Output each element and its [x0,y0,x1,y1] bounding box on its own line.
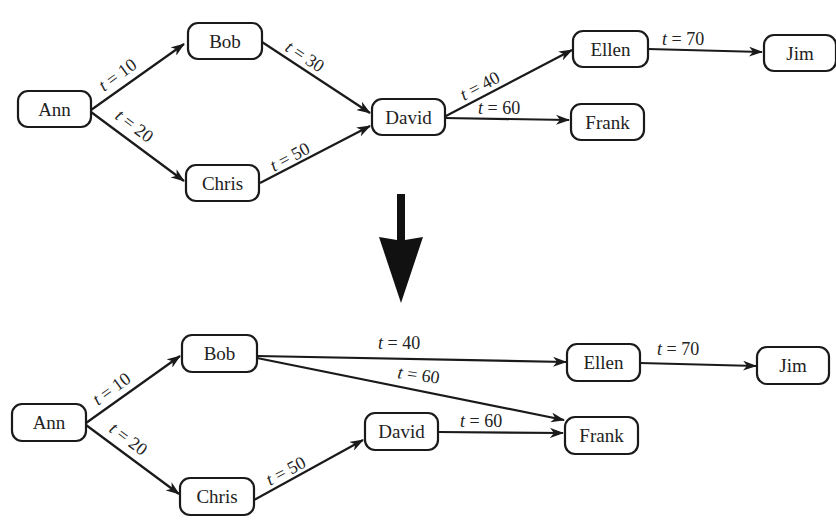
node-jim: Jim [764,35,836,71]
graph-diagram: t = 10 t = 20 t = 30 t = 50 t = 40 t = 6… [0,0,836,529]
svg-text:David: David [378,421,425,442]
bottom-graph: t = 10 t = 20 t = 50 t = 40 t = 60 t = 6… [12,333,829,515]
svg-text:Jim: Jim [786,43,814,64]
edge-label-bob-frank: t = 60 [396,362,441,388]
edge-label-ann-bob: t = 10 [95,54,141,95]
svg-text:Ann: Ann [33,412,66,433]
node-ann: Ann [12,404,86,441]
edge-label-chris-david: t = 50 [266,138,313,175]
edge-label-ellen-jim: t = 70 [662,29,704,49]
edge-bob-ellen [257,356,566,362]
node-ellen: Ellen [573,31,648,67]
node-bob: Bob [182,335,257,372]
node-david: David [365,413,438,450]
svg-text:David: David [385,107,432,128]
edge-label-ann-bob: t = 10 [89,368,135,409]
edge-label-bob-ellen: t = 40 [378,333,420,353]
svg-text:Frank: Frank [585,112,630,133]
node-david: David [372,99,445,135]
node-frank: Frank [565,417,638,454]
node-ann: Ann [18,91,91,127]
edge-label-david-frank: t = 60 [478,98,520,118]
edge-label-ellen-jim: t = 70 [657,339,699,359]
node-bob: Bob [188,23,262,59]
edge-david-frank [438,432,563,433]
svg-text:Ann: Ann [38,99,71,120]
edge-label-ann-chris: t = 20 [106,418,152,459]
svg-text:Chris: Chris [202,173,243,194]
node-ellen: Ellen [567,344,640,381]
edge-david-frank [444,118,569,120]
svg-text:Jim: Jim [779,355,807,376]
edge-label-ann-chris: t = 20 [112,105,158,146]
edge-ellen-jim [648,49,762,52]
node-chris: Chris [186,165,259,201]
node-frank: Frank [571,104,644,140]
svg-text:Bob: Bob [204,343,236,364]
svg-text:Bob: Bob [209,31,241,52]
edge-label-david-frank: t = 60 [460,411,502,431]
edge-label-chris-david: t = 50 [262,452,309,489]
svg-text:Frank: Frank [579,425,624,446]
svg-text:Ellen: Ellen [590,39,631,60]
down-arrow-icon [379,194,423,303]
top-graph: t = 10 t = 20 t = 30 t = 50 t = 40 t = 6… [18,23,836,201]
svg-text:Chris: Chris [196,486,237,507]
node-chris: Chris [180,478,254,515]
edge-ellen-jim [640,363,756,366]
svg-text:Ellen: Ellen [583,352,624,373]
node-jim: Jim [757,347,829,384]
